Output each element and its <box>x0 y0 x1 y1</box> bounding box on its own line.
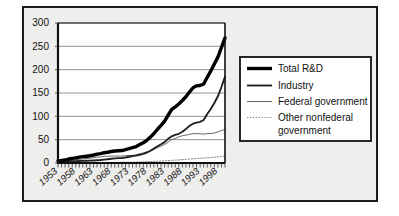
legend-label-federal-government: Federal government <box>278 96 368 107</box>
y-axis-tick-label: 50 <box>38 134 50 145</box>
y-axis-tick-label: 150 <box>32 87 49 98</box>
legend-label-other-nonfederal: Other nonfederal <box>278 112 353 123</box>
x-axis-tick-labels: 1953195819631968197319781983198819931998 <box>36 165 219 188</box>
y-axis-tick-label: 250 <box>32 41 49 52</box>
y-axis-tick-label: 0 <box>43 157 49 168</box>
legend: Total R&D Industry Federal government Ot… <box>240 57 371 141</box>
y-axis-tick-label: 300 <box>32 17 49 28</box>
y-axis-tick-labels: 050100150200250300 <box>32 17 49 168</box>
x-axis-tick-label: 1998 <box>196 165 220 188</box>
chart-svg: 050100150200250300 195319581963196819731… <box>0 0 399 216</box>
figure-container: 050100150200250300 195319581963196819731… <box>0 0 399 216</box>
legend-label-industry: Industry <box>278 80 314 91</box>
y-axis-tick-label: 200 <box>32 64 49 75</box>
y-axis-tick-label: 100 <box>32 111 49 122</box>
legend-label-total-rd: Total R&D <box>278 63 323 74</box>
legend-label-other-nonfederal-line2: government <box>278 125 331 136</box>
